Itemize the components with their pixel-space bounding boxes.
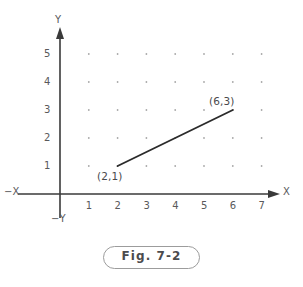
data-line-segment [118,110,233,166]
x-tick-label-7: 7 [259,200,266,211]
point-label-start: (2,1) [97,170,122,182]
y-axis-label: Y [55,14,61,25]
x-tick-label-4: 4 [172,200,179,211]
x-tick-label-6: 6 [230,200,237,211]
y-tick-label-4: 4 [44,76,51,87]
x-tick-label-1: 1 [86,200,93,211]
coordinate-plane-svg [0,0,303,287]
y-axis-arrowhead [56,27,64,39]
negative-y-axis-label: −Y [51,213,66,224]
x-axis-arrowhead [268,190,280,198]
y-tick-label-3: 3 [44,104,51,115]
x-axis-label: X [283,186,290,197]
figure-caption: Fig. 7-2 [103,246,199,269]
x-tick-label-2: 2 [115,200,122,211]
y-tick-label-2: 2 [44,132,51,143]
x-tick-label-5: 5 [201,200,208,211]
figure-container: 5 4 3 2 1 1 2 3 4 5 6 7 Y −Y X −X (2,1) … [0,0,303,287]
y-tick-label-1: 1 [44,160,51,171]
y-tick-label-5: 5 [44,48,51,59]
figure-caption-wrapper: Fig. 7-2 [0,246,303,269]
x-tick-label-3: 3 [143,200,150,211]
point-label-end: (6,3) [209,95,234,107]
grid-dots [88,53,263,167]
negative-x-axis-label: −X [4,186,19,197]
